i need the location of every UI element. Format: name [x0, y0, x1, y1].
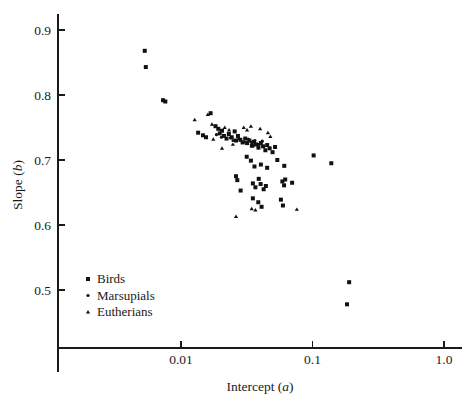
- data-point-eutherians: [250, 207, 254, 210]
- data-point-birds: [282, 183, 286, 187]
- data-point-eutherians: [231, 142, 235, 145]
- data-point-birds: [209, 111, 213, 115]
- data-point-birds: [249, 159, 253, 163]
- data-point-marsupials: [250, 141, 253, 144]
- data-point-birds: [273, 145, 277, 149]
- y-tick-label: 0.6: [34, 218, 51, 233]
- data-point-birds: [163, 100, 167, 104]
- legend-label-birds: Birds: [97, 271, 125, 286]
- data-point-birds: [282, 164, 286, 168]
- data-point-eutherians: [253, 208, 257, 211]
- data-point-birds: [245, 155, 249, 159]
- data-point-birds: [143, 49, 147, 53]
- data-point-eutherians: [295, 207, 299, 210]
- data-point-marsupials: [247, 138, 250, 141]
- y-tick-label: 0.5: [34, 283, 51, 298]
- data-point-marsupials: [220, 136, 223, 139]
- data-point-birds: [220, 129, 224, 133]
- data-point-birds: [259, 163, 263, 167]
- data-point-eutherians: [210, 122, 214, 125]
- data-point-eutherians: [258, 127, 262, 130]
- data-point-birds: [259, 182, 263, 186]
- data-point-marsupials: [215, 133, 218, 136]
- data-point-eutherians: [268, 135, 272, 138]
- x-tick-label: 0.01: [169, 352, 193, 367]
- data-point-birds: [239, 189, 243, 193]
- data-point-birds: [257, 177, 261, 181]
- data-point-birds: [283, 178, 287, 182]
- y-axis-ticks: 0.50.60.70.80.9: [34, 23, 65, 298]
- data-point-birds: [271, 150, 275, 154]
- data-point-birds: [312, 153, 316, 157]
- data-point-birds: [263, 148, 267, 152]
- data-point-marsupials: [243, 140, 246, 143]
- data-point-eutherians: [242, 126, 246, 129]
- data-point-birds: [347, 280, 351, 284]
- y-tick-label: 0.7: [34, 153, 51, 168]
- data-point-birds: [281, 204, 285, 208]
- data-point-birds: [268, 146, 272, 150]
- data-point-eutherians: [211, 137, 215, 140]
- x-axis-ticks: 0.010.11.0: [169, 341, 453, 367]
- x-tick-label: 0.1: [304, 352, 321, 367]
- data-point-birds: [264, 184, 268, 188]
- y-axis-title: Slope (b): [10, 160, 25, 210]
- data-point-birds: [329, 161, 333, 165]
- y-tick-label: 0.9: [34, 23, 51, 38]
- data-point-birds: [233, 129, 237, 133]
- data-point-birds: [216, 127, 220, 131]
- data-point-birds: [253, 185, 257, 189]
- data-point-birds: [275, 158, 279, 162]
- legend-label-marsupials: Marsupials: [97, 288, 155, 303]
- data-point-eutherians: [223, 126, 227, 129]
- data-point-marsupials: [253, 139, 256, 142]
- legend-marker-birds: [86, 277, 90, 281]
- plot-canvas: 0.50.60.70.80.9 0.010.11.0 BirdsMarsupia…: [0, 0, 471, 409]
- legend-marker-marsupials: [86, 294, 89, 297]
- data-point-birds: [260, 205, 264, 209]
- data-point-birds: [251, 181, 255, 185]
- legend-marker-eutherians: [86, 310, 90, 313]
- data-point-birds: [196, 131, 200, 135]
- data-point-birds: [256, 200, 260, 204]
- data-point-birds: [252, 165, 256, 169]
- data-point-marsupials: [229, 136, 232, 139]
- data-point-birds: [235, 178, 239, 182]
- data-point-eutherians: [227, 128, 231, 131]
- series-birds-points: [143, 49, 351, 307]
- legend: BirdsMarsupialsEutherians: [86, 271, 155, 319]
- data-point-marsupials: [257, 143, 260, 146]
- data-point-birds: [251, 196, 255, 200]
- x-axis-title: Intercept (a): [226, 379, 293, 394]
- data-point-eutherians: [193, 118, 197, 121]
- x-tick-label: 1.0: [436, 352, 453, 367]
- data-point-birds: [204, 135, 208, 139]
- data-point-birds: [279, 198, 283, 202]
- data-point-birds: [265, 166, 269, 170]
- data-point-eutherians: [266, 131, 270, 134]
- data-point-birds: [234, 174, 238, 178]
- data-point-birds: [261, 144, 265, 148]
- data-point-birds: [225, 137, 229, 141]
- data-point-eutherians: [234, 215, 238, 218]
- data-point-eutherians: [249, 124, 253, 127]
- data-point-birds: [256, 146, 260, 150]
- data-point-birds: [243, 137, 247, 141]
- data-point-marsupials: [237, 137, 240, 140]
- data-point-birds: [290, 181, 294, 185]
- data-point-birds: [345, 302, 349, 306]
- data-point-marsupials: [232, 139, 235, 142]
- y-tick-label: 0.8: [34, 88, 51, 103]
- data-point-birds: [144, 65, 148, 69]
- data-point-marsupials: [261, 140, 264, 143]
- legend-label-eutherians: Eutherians: [97, 304, 153, 319]
- data-point-eutherians: [220, 146, 224, 149]
- scatter-plot-figure: 0.50.60.70.80.9 0.010.11.0 BirdsMarsupia…: [0, 0, 471, 409]
